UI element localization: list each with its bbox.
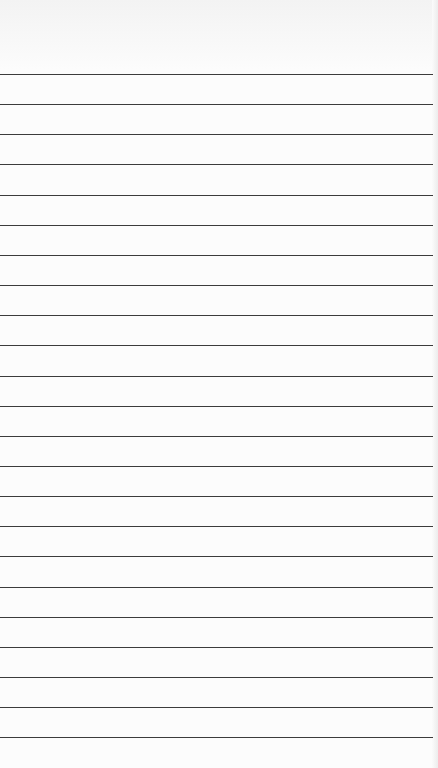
ruled-line xyxy=(0,74,433,75)
ruled-line xyxy=(0,587,433,588)
ruled-line xyxy=(0,707,433,708)
ruled-line xyxy=(0,104,433,105)
ruled-line xyxy=(0,345,433,346)
lined-paper xyxy=(0,0,438,768)
ruled-line xyxy=(0,225,433,226)
ruled-line xyxy=(0,164,433,165)
ruled-line xyxy=(0,134,433,135)
ruled-line xyxy=(0,526,433,527)
ruled-line xyxy=(0,376,433,377)
ruled-line xyxy=(0,195,433,196)
ruled-line xyxy=(0,285,433,286)
ruled-line xyxy=(0,315,433,316)
ruled-line xyxy=(0,496,433,497)
ruled-line xyxy=(0,737,433,738)
ruled-line xyxy=(0,406,433,407)
ruled-line xyxy=(0,466,433,467)
ruled-line xyxy=(0,677,433,678)
ruled-line xyxy=(0,617,433,618)
ruled-line xyxy=(0,255,433,256)
ruled-line xyxy=(0,556,433,557)
paper-edge-shadow xyxy=(432,0,438,768)
ruled-line xyxy=(0,436,433,437)
ruled-line xyxy=(0,647,433,648)
